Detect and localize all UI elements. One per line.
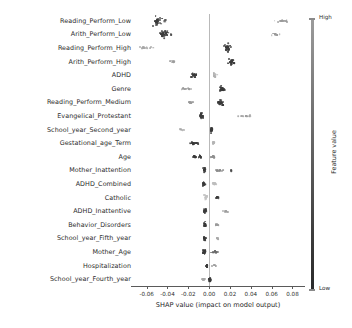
shap-point bbox=[216, 74, 218, 76]
colorbar-high-label: High bbox=[319, 14, 332, 20]
feature-label: Arith_Perform_Low bbox=[71, 31, 131, 37]
shap-point bbox=[216, 170, 218, 172]
shap-point bbox=[228, 58, 230, 60]
shap-point bbox=[205, 213, 207, 215]
shap-point bbox=[152, 47, 154, 49]
shap-point bbox=[209, 277, 211, 279]
shap-point bbox=[155, 15, 157, 17]
shap-point bbox=[230, 61, 232, 63]
shap-point bbox=[215, 251, 217, 253]
shap-point bbox=[202, 252, 204, 254]
shap-point bbox=[224, 211, 226, 213]
shap-point bbox=[221, 170, 223, 172]
colorbar-low-label: Low bbox=[319, 285, 330, 291]
shap-point bbox=[232, 59, 234, 61]
shap-point bbox=[204, 251, 206, 253]
shap-point bbox=[167, 34, 169, 36]
colorbar-bottom-cap bbox=[309, 289, 315, 291]
shap-point bbox=[212, 252, 214, 254]
shap-point bbox=[234, 62, 236, 64]
shap-point bbox=[165, 21, 167, 23]
feature-label: Catholic bbox=[105, 194, 131, 200]
shap-point bbox=[210, 132, 212, 134]
shap-point bbox=[277, 34, 279, 36]
shap-point bbox=[222, 101, 224, 103]
feature-label: ADHD bbox=[112, 72, 131, 78]
shap-point bbox=[209, 281, 211, 283]
shap-point bbox=[165, 32, 167, 34]
x-tick-label: 0.06 bbox=[265, 291, 277, 297]
shap-point bbox=[161, 34, 163, 36]
shap-point bbox=[213, 182, 215, 184]
x-tick-label: -0.02 bbox=[181, 291, 195, 297]
feature-label: ADHD_Combined bbox=[76, 181, 131, 187]
shap-point bbox=[216, 197, 218, 199]
shap-point bbox=[227, 50, 229, 52]
shap-point bbox=[166, 30, 168, 32]
shap-point bbox=[218, 170, 220, 172]
beeswarm-points bbox=[131, 14, 305, 286]
shap-point bbox=[211, 128, 213, 130]
x-axis-label: SHAP value (impact on model output) bbox=[131, 301, 305, 309]
shap-point bbox=[277, 21, 279, 23]
feature-label: Genre bbox=[111, 86, 131, 92]
feature-label: Hospitalization bbox=[83, 262, 131, 268]
shap-point bbox=[204, 278, 206, 280]
shap-point bbox=[161, 23, 163, 25]
shap-point bbox=[141, 47, 143, 49]
shap-point bbox=[163, 37, 165, 39]
shap-point bbox=[231, 170, 233, 172]
shap-point bbox=[149, 47, 151, 49]
shap-point bbox=[182, 87, 184, 89]
shap-point bbox=[203, 169, 205, 171]
feature-label: Mother_Age bbox=[92, 249, 131, 255]
shap-point bbox=[203, 184, 205, 186]
feature-label-column: Reading_Perform_LowArith_Perform_LowRead… bbox=[0, 0, 131, 328]
x-tick-label: -0.04 bbox=[160, 291, 174, 297]
shap-point bbox=[274, 33, 276, 35]
shap-point bbox=[158, 19, 160, 21]
shap-point bbox=[190, 88, 192, 90]
shap-point bbox=[187, 88, 189, 90]
shap-point bbox=[205, 197, 207, 199]
shap-point bbox=[194, 156, 196, 158]
feature-label: Reading_Perform_High bbox=[58, 45, 131, 51]
feature-label: Arith_Perform_High bbox=[69, 58, 131, 64]
shap-point bbox=[227, 45, 229, 47]
colorbar-top-cap bbox=[309, 18, 315, 20]
shap-point bbox=[193, 74, 195, 76]
x-tick-label: 0.04 bbox=[245, 291, 257, 297]
shap-point bbox=[204, 239, 206, 241]
x-tick-mark bbox=[292, 286, 293, 289]
shap-point bbox=[230, 46, 232, 48]
feature-label: Mother_Inattention bbox=[69, 167, 131, 173]
shap-point bbox=[271, 34, 273, 36]
shap-point bbox=[152, 25, 154, 27]
x-tick-label: 0.02 bbox=[224, 291, 236, 297]
shap-point bbox=[170, 34, 172, 36]
shap-point bbox=[226, 211, 228, 213]
shap-point bbox=[170, 60, 172, 62]
shap-summary-plot: Reading_Perform_LowArith_Perform_LowRead… bbox=[0, 0, 352, 328]
feature-label: Gestational_age_Term bbox=[60, 140, 131, 146]
feature-label: School_year_Second_year bbox=[47, 126, 131, 132]
x-tick-mark bbox=[167, 286, 168, 289]
shap-point bbox=[245, 115, 247, 117]
shap-point bbox=[213, 157, 215, 159]
feature-label: Age bbox=[118, 154, 131, 160]
plot-area bbox=[131, 14, 305, 286]
shap-point bbox=[197, 142, 199, 144]
x-tick-label: -0.06 bbox=[139, 291, 153, 297]
shap-point bbox=[274, 20, 276, 22]
feature-label: Behavior_Disorders bbox=[68, 222, 131, 228]
x-tick-label: 0.00 bbox=[203, 291, 215, 297]
x-tick-label: 0.08 bbox=[286, 291, 298, 297]
x-tick-mark bbox=[147, 286, 148, 289]
shap-point bbox=[189, 102, 191, 104]
shap-point bbox=[146, 47, 148, 49]
shap-point bbox=[281, 20, 283, 22]
x-tick-mark bbox=[209, 286, 210, 289]
colorbar-gradient bbox=[311, 18, 314, 290]
shap-point bbox=[221, 88, 223, 90]
shap-point bbox=[220, 102, 222, 104]
